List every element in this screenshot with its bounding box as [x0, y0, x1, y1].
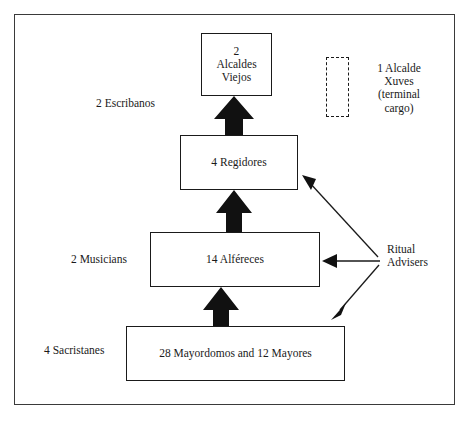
side-label-musicians: 2 Musicians [71, 253, 127, 266]
node-alcalde-xuves-dashed-box[interactable] [326, 57, 349, 117]
node-mayordomos-mayores-label: 28 Mayordomos and 12 Mayores [155, 347, 316, 360]
side-label-sacristanes: 4 Sacristanes [44, 344, 104, 357]
node-regidores[interactable]: 4 Regidores [180, 135, 298, 190]
node-regidores-label: 4 Regidores [207, 156, 270, 169]
side-label-alcalde-xuves: 1 Alcalde Xuves (terminal cargo) [357, 62, 441, 115]
node-mayordomos-mayores[interactable]: 28 Mayordomos and 12 Mayores [126, 326, 345, 381]
node-alcaldes-viejos[interactable]: 2 Alcaldes Viejos [201, 33, 272, 96]
node-alfereces-label: 14 Alféreces [202, 253, 268, 266]
side-label-escribanos: 2 Escribanos [96, 97, 155, 110]
diagram-canvas: 2 Alcaldes Viejos 4 Regidores 14 Alférec… [0, 0, 466, 422]
node-alcaldes-viejos-label: 2 Alcaldes Viejos [212, 45, 260, 84]
node-alfereces[interactable]: 14 Alféreces [150, 232, 320, 287]
side-label-ritual-advisers: Ritual Advisers [387, 243, 457, 269]
